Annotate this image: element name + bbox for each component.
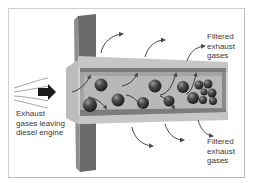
outlet-bottom-label: Filtered exhaust gases bbox=[207, 137, 235, 166]
outlet-top-label-line: gases bbox=[207, 51, 235, 61]
outlet-bottom-label-line: gases bbox=[207, 156, 235, 166]
outflow-arrows-bottom bbox=[132, 120, 212, 146]
outflow-arrows-top bbox=[101, 34, 204, 61]
inlet-label-line: gases leaving bbox=[16, 119, 65, 129]
inlet-label: Exhaust gases leaving diesel engine bbox=[16, 109, 65, 138]
outlet-bottom-label-line: exhaust bbox=[207, 147, 235, 157]
outlet-top-label: Filtered exhaust gases bbox=[207, 32, 235, 61]
inlet-label-line: Exhaust bbox=[16, 109, 65, 119]
outlet-bottom-label-line: Filtered bbox=[207, 137, 235, 147]
inlet-label-line: diesel engine bbox=[16, 128, 65, 138]
outlet-top-label-line: exhaust bbox=[207, 42, 235, 52]
outlet-top-label-line: Filtered bbox=[207, 32, 235, 42]
